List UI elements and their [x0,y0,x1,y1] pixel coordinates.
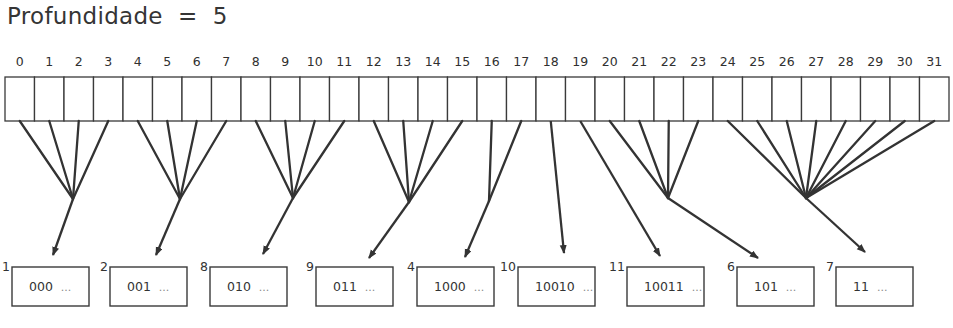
directory-cell [831,77,861,121]
bucket-ellipsis: ... [61,281,72,294]
pointer-line [806,121,905,198]
directory-index-label: 19 [572,54,588,69]
bucket-prefix-value: 010 [227,279,251,294]
directory-index-label: 30 [897,54,913,69]
directory-index-label: 2 [75,54,83,69]
directory-cell [212,77,242,121]
directory-cell [330,77,360,121]
pointer-line [489,121,492,201]
directory-cell [153,77,183,121]
directory-cell [772,77,802,121]
pointer-arrow [156,199,180,255]
pointer-arrow [551,121,564,253]
directory-index-label: 22 [661,54,677,69]
pointer-arrow [263,198,293,254]
directory-index-label: 10 [307,54,323,69]
pointer-arrow [369,202,409,258]
directory-index-label: 29 [867,54,883,69]
pointer-line [787,121,806,198]
directory-cell [94,77,124,121]
directory-cell [359,77,389,121]
bucket-prefix-value: 000 [29,279,53,294]
bucket-local-depth: 10 [500,259,516,274]
bucket-ellipsis: ... [786,281,797,294]
directory-array [5,77,949,121]
directory-cell [684,77,714,121]
bucket-prefix: 010... [227,279,269,294]
bucket-local-depth: 7 [826,259,834,274]
directory-index-label: 15 [454,54,470,69]
bucket-prefix: 001... [127,279,169,294]
directory-index-label: 14 [425,54,441,69]
pointer-line [409,121,462,202]
directory-cell [920,77,950,121]
directory-cell [713,77,743,121]
pointer-line [20,121,73,199]
bucket: 1000... [2,259,89,306]
bucket-local-depth: 1 [2,259,10,274]
directory-index-label: 11 [336,54,352,69]
directory-cell [890,77,920,121]
directory-index-label: 6 [193,54,201,69]
directory-index-label: 24 [720,54,736,69]
directory-index-label: 8 [252,54,260,69]
bucket-prefix: 101... [754,279,796,294]
pointer-edges [20,121,935,258]
bucket-local-depth: 9 [306,259,314,274]
directory-cell [418,77,448,121]
directory-cell [123,77,153,121]
directory-index-label: 13 [395,54,411,69]
directory-index-label: 16 [484,54,500,69]
pointer-line [668,121,669,198]
directory-index-label: 27 [808,54,824,69]
extendible-hashing-diagram: 0123456789101112131415161718192021222324… [0,0,953,328]
bucket-local-depth: 2 [100,259,108,274]
bucket-prefix: 011... [333,279,375,294]
directory-index-label: 20 [602,54,618,69]
directory-index-label: 4 [134,54,142,69]
directory-cell [182,77,212,121]
pointer-arrow [53,199,73,255]
directory-index-label: 25 [749,54,765,69]
directory-index-labels: 0123456789101112131415161718192021222324… [16,54,942,69]
bucket-ellipsis: ... [259,281,270,294]
bucket-local-depth: 4 [407,259,415,274]
pointer-line [489,121,521,201]
directory-index-label: 26 [779,54,795,69]
bucket-prefix-value: 101 [754,279,778,294]
bucket-list: 1000...2001...8010...9011...41000...1010… [2,259,913,306]
bucket-local-depth: 6 [727,259,735,274]
directory-index-label: 23 [690,54,706,69]
directory-cell [271,77,301,121]
directory-cell [802,77,832,121]
bucket: 1010010... [500,259,595,306]
directory-cell [241,77,271,121]
pointer-line [180,121,197,199]
directory-index-label: 9 [281,54,289,69]
directory-cell [64,77,94,121]
bucket-prefix-value: 1000 [434,279,466,294]
directory-cell [389,77,419,121]
directory-cell [566,77,596,121]
bucket-prefix-value: 11 [853,279,869,294]
directory-cell [654,77,684,121]
bucket-ellipsis: ... [583,281,594,294]
bucket-ellipsis: ... [365,281,376,294]
bucket-prefix: 10010... [535,279,593,294]
directory-cell [300,77,330,121]
directory-cell [595,77,625,121]
bucket-prefix-value: 10010 [535,279,575,294]
bucket-box [836,267,913,306]
bucket: 2001... [100,259,187,306]
directory-index-label: 31 [926,54,942,69]
bucket-ellipsis: ... [877,281,888,294]
bucket-ellipsis: ... [474,281,485,294]
bucket-ellipsis: ... [692,281,703,294]
pointer-arrow [465,201,489,257]
pointer-line [293,121,315,198]
directory-index-label: 0 [16,54,24,69]
bucket-prefix-value: 011 [333,279,357,294]
directory-index-label: 12 [366,54,382,69]
pointer-line [49,121,73,199]
bucket-ellipsis: ... [159,281,170,294]
